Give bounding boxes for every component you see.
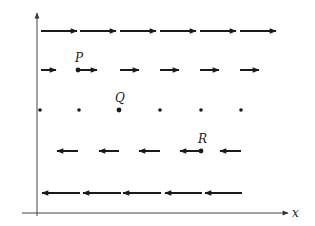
zero-vector-dot	[77, 108, 81, 112]
vector-field-diagram: x PQR	[0, 0, 315, 226]
point-label: R	[197, 132, 207, 146]
zero-vector-dot	[199, 108, 203, 112]
x-axis-label: x	[292, 206, 299, 220]
vector-field-arrows	[38, 31, 276, 193]
axes: x	[22, 13, 299, 220]
point-q: Q	[115, 91, 125, 112]
zero-vector-dot	[158, 108, 162, 112]
point-label: P	[74, 51, 84, 65]
row-3	[38, 108, 243, 112]
zero-vector-dot	[38, 108, 42, 112]
point-dot	[199, 149, 204, 154]
zero-vector-dot	[239, 108, 243, 112]
point-dot	[76, 68, 81, 73]
point-label: Q	[115, 91, 125, 105]
labeled-points: PQR	[74, 51, 207, 153]
point-dot	[117, 108, 122, 113]
